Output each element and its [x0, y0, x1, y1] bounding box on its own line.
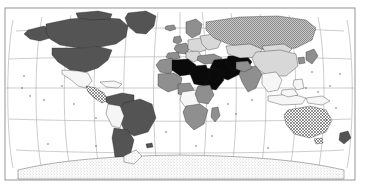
region-south-georgia: [146, 143, 153, 148]
region-canada: [46, 17, 128, 48]
world-map-canvas: [0, 0, 368, 191]
world-map-figure: [0, 0, 368, 191]
region-korea: [298, 57, 305, 64]
